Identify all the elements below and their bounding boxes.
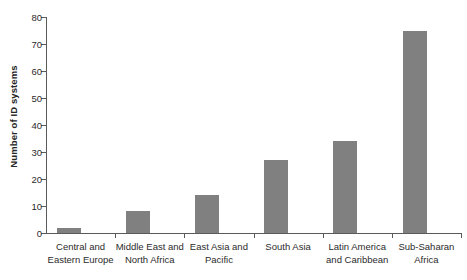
x-axis-category-label-line: Latin America — [323, 240, 392, 253]
x-axis-category-label-line: South Asia — [254, 240, 323, 253]
y-axis-tick-label: 0 — [37, 228, 42, 239]
x-axis-category-label-line: Middle East and — [115, 240, 184, 253]
x-axis-tick-mark — [461, 233, 462, 238]
x-axis-category-label-line: Central and — [46, 240, 115, 253]
x-axis-category-label: Middle East andNorth Africa — [115, 240, 184, 266]
bar — [333, 141, 357, 233]
x-axis-category-label-line: East Asia and — [184, 240, 253, 253]
bar — [195, 195, 219, 233]
x-axis-category-label: Latin Americaand Caribbean — [323, 240, 392, 266]
y-axis-tick-label: 50 — [31, 93, 42, 104]
x-axis-labels: Central andEastern EuropeMiddle East and… — [46, 240, 461, 280]
y-axis-tick-label: 70 — [31, 39, 42, 50]
y-axis-tick-label: 20 — [31, 174, 42, 185]
bar — [57, 228, 81, 233]
y-axis-tick-label: 80 — [31, 12, 42, 23]
y-axis-tick-label: 60 — [31, 66, 42, 77]
y-axis-tick-label: 40 — [31, 120, 42, 131]
plot-area: 01020304050607080 — [46, 17, 461, 233]
y-axis-tick-label: 10 — [31, 201, 42, 212]
x-axis-tick-mark — [254, 233, 255, 238]
x-axis-category-label-line: North Africa — [115, 253, 184, 266]
x-axis-category-label: South Asia — [254, 240, 323, 253]
x-axis-category-label-line: Sub-Saharan — [392, 240, 461, 253]
x-axis-category-label: Central andEastern Europe — [46, 240, 115, 266]
x-axis-category-label: Sub-SaharanAfrica — [392, 240, 461, 266]
y-axis-tick-label: 30 — [31, 147, 42, 158]
x-axis-tick-mark — [323, 233, 324, 238]
x-axis-category-label: East Asia andPacific — [184, 240, 253, 266]
bar — [403, 31, 427, 234]
x-axis-tick-mark — [392, 233, 393, 238]
x-axis-category-label-line: Africa — [392, 253, 461, 266]
bar — [126, 211, 150, 233]
x-axis-tick-mark — [184, 233, 185, 238]
x-axis-category-label-line: Eastern Europe — [46, 253, 115, 266]
x-axis-category-label-line: and Caribbean — [323, 253, 392, 266]
bar-chart: Number of ID systems 01020304050607080 C… — [0, 0, 467, 280]
y-axis-line — [46, 17, 47, 233]
y-axis-title: Number of ID systems — [2, 0, 24, 233]
y-axis-title-text: Number of ID systems — [8, 65, 19, 167]
x-axis-tick-mark — [115, 233, 116, 238]
bar — [264, 160, 288, 233]
x-axis-category-label-line: Pacific — [184, 253, 253, 266]
